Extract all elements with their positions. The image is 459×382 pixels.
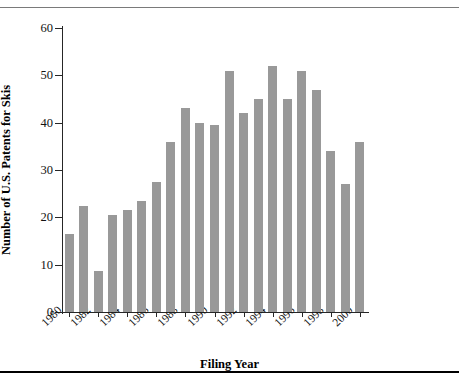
bar	[268, 66, 277, 312]
x-tick-mark	[302, 312, 303, 317]
figure: Number of U.S. Patents for Skis 01020304…	[0, 0, 459, 382]
y-tick-mark	[55, 170, 62, 171]
bar	[137, 201, 146, 312]
x-tick-mark	[331, 312, 332, 317]
y-tick-label: 10	[41, 257, 54, 272]
x-tick-mark	[215, 312, 216, 317]
y-tick-label: 50	[41, 68, 54, 83]
bar	[123, 210, 132, 312]
bar	[254, 99, 263, 312]
y-tick-label: 20	[41, 210, 54, 225]
y-tick-label: 60	[41, 21, 54, 36]
x-tick-mark	[360, 312, 361, 317]
bar	[297, 71, 306, 312]
bar	[152, 182, 161, 312]
bar	[355, 142, 364, 312]
bar	[94, 271, 103, 312]
bar	[225, 71, 234, 312]
bottom-divider-rule	[0, 371, 459, 373]
y-axis-title: Number of U.S. Patents for Skis	[0, 85, 14, 255]
bar	[166, 142, 175, 312]
y-tick-label: 40	[41, 115, 54, 130]
bar	[312, 90, 321, 312]
plot-area: 0102030405060 19801982198419861988199019…	[62, 28, 367, 312]
bar	[65, 234, 74, 312]
bar	[326, 151, 335, 312]
y-tick-mark	[55, 75, 62, 76]
bar	[239, 113, 248, 312]
bar	[341, 184, 350, 312]
top-divider-rule	[0, 7, 459, 8]
x-tick-mark	[273, 312, 274, 317]
y-tick-mark	[55, 217, 62, 218]
x-axis-title: Filing Year	[0, 357, 459, 372]
x-tick-label: 1980	[39, 304, 64, 329]
bar	[181, 108, 190, 312]
y-tick-mark	[55, 28, 62, 29]
bar	[283, 99, 292, 312]
bar	[79, 206, 88, 313]
bar	[210, 125, 219, 312]
x-tick-mark	[244, 312, 245, 317]
y-tick-mark	[55, 123, 62, 124]
y-tick-mark	[55, 265, 62, 266]
x-tick-mark	[185, 312, 186, 317]
bar	[195, 123, 204, 312]
y-tick-label: 30	[41, 163, 54, 178]
bar	[108, 215, 117, 312]
